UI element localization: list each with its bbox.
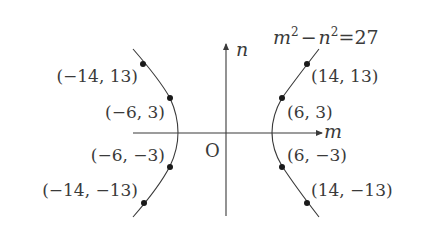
eq-minus: − [301, 26, 317, 48]
point-dot [304, 200, 310, 206]
point-dot [279, 164, 285, 170]
equation-label: m2−n2=27 [273, 25, 379, 48]
n-axis-label: n [236, 38, 248, 60]
eq-var-m: m [273, 26, 291, 48]
point-dot [167, 95, 173, 101]
point-label: (−6, 3) [105, 102, 165, 122]
eq-equals: = [338, 26, 354, 48]
point-label: (14, 13) [311, 66, 378, 86]
hyperbola-diagram: (−14, 13) (−6, 3) (−6, −3) (−14, −13) (1… [0, 0, 430, 228]
m-axis-label: m [324, 120, 342, 142]
point-dot [141, 200, 147, 206]
eq-exp: 2 [331, 25, 339, 39]
eq-var-n: n [319, 26, 331, 48]
eq-rhs: 27 [354, 26, 378, 48]
point-dot [167, 164, 173, 170]
point-label: (6, −3) [287, 145, 347, 165]
point-label: (−14, −13) [42, 180, 138, 200]
point-dot [140, 61, 146, 67]
eq-exp: 2 [291, 25, 299, 39]
point-label: (−6, −3) [91, 145, 165, 165]
point-label: (−14, 13) [56, 66, 138, 86]
origin-label: O [205, 140, 220, 161]
point-dot [279, 95, 285, 101]
point-label: (6, 3) [287, 102, 333, 122]
point-dot [304, 61, 310, 67]
point-label: (14, −13) [311, 180, 393, 200]
